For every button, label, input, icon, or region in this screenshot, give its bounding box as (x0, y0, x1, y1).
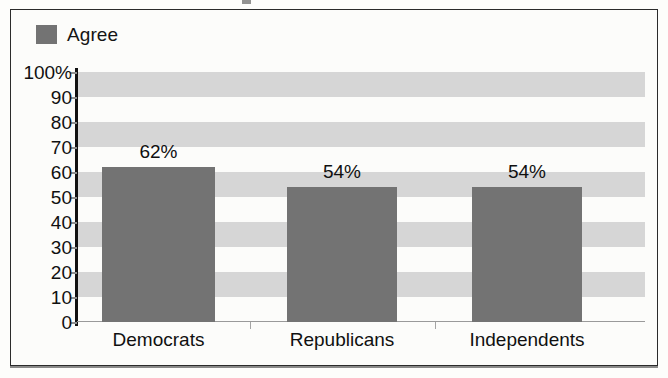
bar-value-label: 54% (482, 162, 572, 181)
scan-artifact (242, 0, 251, 4)
legend-label-agree: Agree (67, 25, 118, 44)
x-axis-category-label: Republicans (242, 330, 442, 349)
x-axis-tick (435, 322, 436, 329)
grid-band (77, 72, 645, 97)
y-axis-tick-label: 30 (51, 238, 72, 257)
chart-screenshot: Agree 100%9080706050403020100 62%Democra… (0, 0, 668, 378)
x-axis-category-label: Independents (427, 330, 627, 349)
bar-value-label: 54% (297, 162, 387, 181)
y-axis-tick-label: 20 (51, 263, 72, 282)
bar (472, 187, 582, 322)
bar (287, 187, 397, 322)
y-axis-tick-label: 80 (51, 113, 72, 132)
y-axis-tick-label: 100% (23, 63, 72, 82)
y-axis-tick-label: 10 (51, 288, 72, 307)
y-axis-tick-label: 60 (51, 163, 72, 182)
y-axis-tick-label: 70 (51, 138, 72, 157)
y-axis-tick-label: 50 (51, 188, 72, 207)
y-axis-tick-label: 90 (51, 88, 72, 107)
bar (102, 167, 215, 322)
y-axis-tick-labels: 100%9080706050403020100 (0, 0, 72, 378)
x-axis-tick (250, 322, 251, 329)
y-axis-tick-label: 40 (51, 213, 72, 232)
x-axis-category-label: Democrats (59, 330, 259, 349)
bar-value-label: 62% (114, 142, 204, 161)
